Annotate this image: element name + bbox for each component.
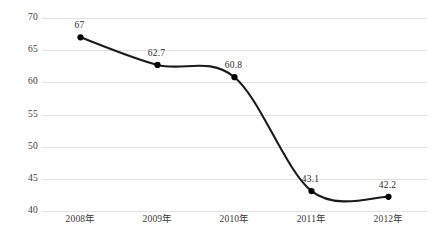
gridline	[42, 211, 427, 212]
data-point-marker	[385, 194, 391, 200]
y-axis-tick-label: 50	[12, 142, 38, 152]
data-point-marker	[154, 62, 160, 68]
y-axis-tick-label: 45	[12, 174, 38, 184]
y-axis-tick-label: 40	[12, 206, 38, 216]
y-axis: 70656055504540	[8, 18, 38, 211]
x-axis-tick-label: 2009年	[143, 215, 173, 225]
data-point-label: 43.1	[302, 175, 319, 185]
data-point-label: 60.8	[225, 61, 242, 71]
data-point-label: 67	[75, 21, 85, 31]
y-axis-tick-label: 60	[12, 77, 38, 87]
data-point-marker	[231, 74, 237, 80]
data-point-label: 62.7	[148, 48, 165, 58]
y-axis-tick-label: 65	[12, 45, 38, 55]
line-chart: 70656055504540 6762.760.843.142.2 2008年2…	[0, 0, 444, 248]
x-axis-tick-label: 2011年	[297, 215, 327, 225]
x-axis-tick-label: 2008年	[66, 215, 96, 225]
x-axis-tick-label: 2012年	[374, 215, 404, 225]
plot-area: 6762.760.843.142.2	[42, 18, 427, 211]
y-axis-tick-label: 55	[12, 110, 38, 120]
data-point-label: 42.2	[379, 180, 396, 190]
x-axis: 2008年2009年2010年2011年2012年	[42, 215, 427, 233]
series-line	[42, 18, 427, 211]
y-axis-tick-label: 70	[12, 13, 38, 23]
data-point-marker	[308, 188, 314, 194]
data-point-marker	[77, 34, 83, 40]
x-axis-tick-label: 2010年	[220, 215, 250, 225]
